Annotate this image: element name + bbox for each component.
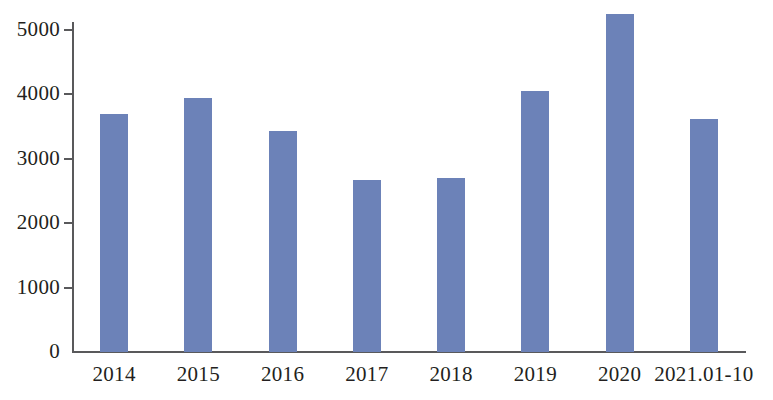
bar [353, 180, 381, 352]
x-axis-tick-labels: 20142015201620172018201920202021.01-10 [0, 362, 773, 396]
bar [269, 131, 297, 352]
bar [184, 98, 212, 352]
y-axis-tick [64, 158, 73, 160]
y-axis-tick [64, 222, 73, 224]
y-axis-tick-labels: 010002000300040005000 [0, 0, 60, 400]
bar [521, 91, 549, 352]
y-axis-tick [64, 29, 73, 31]
x-axis-tick-label: 2021.01-10 [624, 362, 773, 386]
bar-chart: 010002000300040005000 201420152016201720… [0, 0, 773, 400]
bar [437, 178, 465, 352]
bar [606, 14, 634, 352]
bar [100, 114, 128, 352]
y-axis-tick [64, 287, 73, 289]
plot-area [72, 0, 746, 352]
y-axis-tick-label: 4000 [2, 83, 60, 104]
y-axis-tick-label: 0 [2, 341, 60, 362]
y-axis-tick-label: 2000 [2, 212, 60, 233]
y-axis-tick-label: 1000 [2, 277, 60, 298]
y-axis-tick-label: 5000 [2, 19, 60, 40]
bars-layer [72, 0, 746, 352]
y-axis-tick-label: 3000 [2, 148, 60, 169]
y-axis-tick [64, 93, 73, 95]
bar [690, 119, 718, 352]
